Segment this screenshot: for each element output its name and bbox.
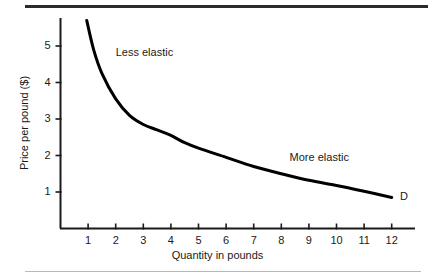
x-tick-label-3: 3 bbox=[133, 235, 153, 246]
x-tick-label-11: 11 bbox=[354, 235, 374, 246]
annotation-curve-label-d: D bbox=[400, 190, 408, 202]
y-tick-label-4: 4 bbox=[37, 77, 51, 88]
demand-curve-figure: 12345 123456789101112 Price per pound ($… bbox=[0, 0, 435, 280]
x-tick-label-10: 10 bbox=[327, 235, 347, 246]
x-tick-label-8: 8 bbox=[271, 235, 291, 246]
y-tick-label-2: 2 bbox=[37, 150, 51, 161]
y-tick-label-5: 5 bbox=[37, 40, 51, 51]
axes-group bbox=[60, 18, 415, 229]
x-tick-label-12: 12 bbox=[382, 235, 402, 246]
x-tick-label-4: 4 bbox=[161, 235, 181, 246]
x-tick-label-7: 7 bbox=[244, 235, 264, 246]
x-axis-title: Quantity in pounds bbox=[0, 249, 435, 261]
y-tick-label-3: 3 bbox=[37, 113, 51, 124]
x-tick-label-5: 5 bbox=[189, 235, 209, 246]
y-tick-label-1: 1 bbox=[37, 186, 51, 197]
annotation-more-elastic: More elastic bbox=[290, 151, 349, 163]
x-tick-label-6: 6 bbox=[216, 235, 236, 246]
annotation-less-elastic: Less elastic bbox=[116, 46, 173, 58]
x-tick-label-9: 9 bbox=[299, 235, 319, 246]
y-axis-title: Price per pound ($) bbox=[18, 53, 30, 193]
x-tick-label-1: 1 bbox=[78, 235, 98, 246]
x-tick-label-2: 2 bbox=[106, 235, 126, 246]
